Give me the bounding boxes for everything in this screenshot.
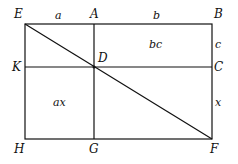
point-F-label: F [209,142,219,156]
point-C-label: C [214,60,223,74]
point-B-label: B [213,7,223,21]
point-A-label: A [89,7,99,21]
point-G-label: G [89,142,99,156]
segment-c-label: c [215,38,221,51]
point-D-dot [93,66,96,69]
segment-a-label: a [55,9,62,22]
segment-b-label: b [153,9,160,22]
point-D-label: D [97,51,108,65]
point-H-label: H [13,142,25,156]
geometry-diagram: E A B K D C H G F a b c x bc ax [0,0,238,164]
point-E-label: E [13,7,23,21]
diagram-lines [25,24,212,139]
diagonal-EF [25,24,212,139]
point-K-label: K [11,60,22,74]
region-bc-label: bc [149,38,162,51]
region-ax-label: ax [53,96,67,109]
segment-x-label: x [215,96,222,109]
